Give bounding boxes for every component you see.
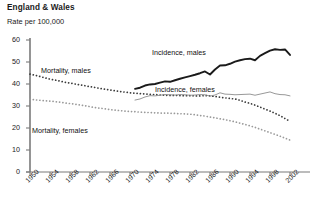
y-tick-label: 50	[4, 57, 20, 66]
y-axis	[26, 38, 30, 172]
y-tick-label: 60	[4, 35, 20, 44]
y-tick-label: 40	[4, 79, 20, 88]
y-tick-label: 30	[4, 101, 20, 110]
series-label-incidence-males: Incidence, males	[152, 48, 206, 57]
series-label-mortality-males: Mortality, males	[41, 66, 91, 75]
series-label-incidence-females: Incidence, females	[155, 85, 215, 94]
y-tick-label: 10	[4, 145, 20, 154]
y-tick-label: 0	[4, 167, 20, 176]
series-label-mortality-females: Mortality, females	[32, 126, 88, 135]
series-line-mortality-males	[30, 74, 290, 121]
chart-figure: England & Wales Rate per 100,000 6050403…	[0, 0, 317, 204]
y-tick-label: 20	[4, 123, 20, 132]
